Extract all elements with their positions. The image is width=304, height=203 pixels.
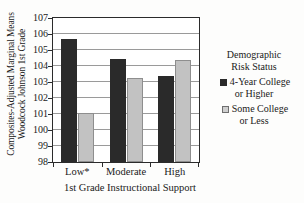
bar — [110, 59, 126, 162]
x-tick-label: Moderate — [106, 166, 146, 178]
y-tick-label: 100 — [33, 125, 48, 135]
y-tick-label: 107 — [33, 13, 48, 23]
y-tick-label: 99 — [38, 141, 48, 151]
x-axis-labels: Low*ModerateHigh — [52, 166, 200, 180]
y-tick-label: 103 — [33, 77, 48, 87]
legend-title-line2: Risk Status — [206, 61, 302, 73]
legend-swatch-icon — [220, 79, 227, 86]
legend-label-line1: 4-Year College — [230, 76, 290, 87]
y-tick-label: 98 — [38, 157, 48, 167]
bar — [127, 78, 143, 162]
bar — [175, 60, 191, 162]
legend-swatch-icon — [222, 106, 229, 113]
x-tick-label: High — [164, 166, 185, 178]
legend-label-line2: or Higher — [206, 88, 302, 100]
y-tick-label: 106 — [33, 29, 48, 39]
legend-label-line1: Some College — [232, 103, 288, 114]
x-tick-label: Low* — [65, 166, 90, 178]
bar — [61, 39, 77, 162]
legend-item: Some Collegeor Less — [206, 103, 302, 126]
plot-area — [52, 17, 200, 163]
legend-title-line1: Demographic — [206, 49, 302, 61]
legend: Demographic Risk Status 4-Year Collegeor… — [206, 49, 302, 126]
legend-label-line2: or Less — [206, 115, 302, 127]
bar-chart: Woodcock Johnson 1st Grade Composites-Ad… — [0, 0, 304, 203]
y-tick-label: 101 — [33, 109, 48, 119]
y-tick-label: 102 — [33, 93, 48, 103]
bar — [78, 113, 94, 162]
x-axis-title: 1st Grade Instructional Support — [40, 182, 220, 194]
y-axis-ticks: 9899100101102103104105106107 — [0, 17, 52, 163]
bar — [158, 76, 174, 162]
legend-item: 4-Year Collegeor Higher — [206, 76, 302, 99]
y-tick-label: 105 — [33, 45, 48, 55]
gridline — [53, 33, 199, 34]
legend-entries: 4-Year Collegeor HigherSome Collegeor Le… — [206, 76, 302, 126]
y-tick-label: 104 — [33, 61, 48, 71]
